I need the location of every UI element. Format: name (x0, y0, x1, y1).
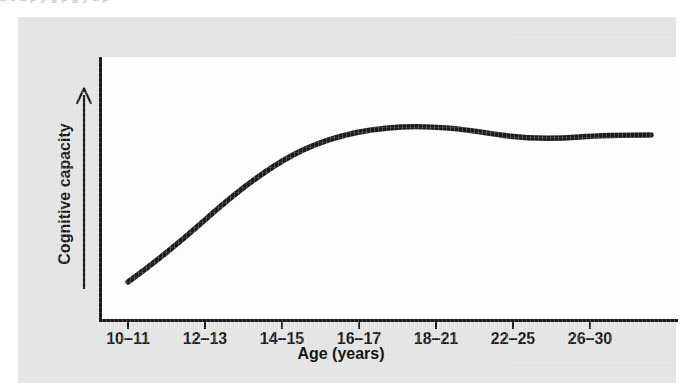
x-tick-mark (281, 322, 283, 329)
clipped-caption-bleed: a e a p y g p g y a p (0, 0, 682, 3)
x-tick-mark (358, 322, 360, 329)
x-tick-mark (512, 322, 514, 329)
x-tick-mark (127, 322, 129, 329)
x-tick-mark (435, 322, 437, 329)
up-arrow-icon (74, 83, 94, 291)
figure-panel: Cognitive capacity 10–11 12–13 14–15 16–… (18, 17, 676, 383)
cognitive-capacity-curve (101, 57, 678, 320)
x-tick-mark (204, 322, 206, 329)
x-tick-mark (589, 322, 591, 329)
figure-container: a e a p y g p g y a p Cognitive capacity… (0, 0, 682, 383)
y-axis-title: Cognitive capacity (56, 84, 74, 304)
x-axis-title: Age (years) (0, 345, 682, 363)
